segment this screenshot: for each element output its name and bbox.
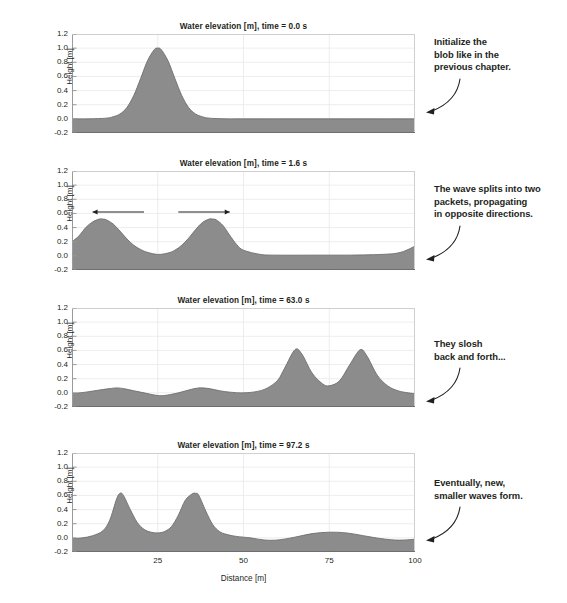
plot-area: Height [m]1.21.00.80.60.40.20.0-0.2 xyxy=(72,34,415,133)
y-tick-label: -0.2 xyxy=(44,129,68,137)
y-tick-label: 0.6 xyxy=(44,491,68,499)
annotation-line: They slosh xyxy=(434,338,564,351)
annotation-line: smaller waves form. xyxy=(434,490,564,503)
y-tick-label: 1.0 xyxy=(44,181,68,189)
y-tick-label: -0.2 xyxy=(44,266,68,274)
annotation-text: Eventually, new,smaller waves form. xyxy=(434,477,564,502)
y-tick-label: 0.2 xyxy=(44,375,68,383)
x-tick-label: 100 xyxy=(408,557,421,565)
plot-area: Height [m]1.21.00.80.60.40.20.0-0.225507… xyxy=(72,453,415,552)
panel-title: Water elevation [m], time = 1.6 s xyxy=(72,159,415,168)
plot-area: Height [m]1.21.00.80.60.40.20.0-0.2 xyxy=(72,308,415,407)
wave-plot-svg xyxy=(72,308,415,407)
wave-plot-svg xyxy=(72,171,415,270)
plot-area: Height [m]1.21.00.80.60.40.20.0-0.2 xyxy=(72,171,415,270)
y-tick-label: 1.2 xyxy=(44,30,68,38)
annotation-line: in opposite directions. xyxy=(434,208,564,221)
y-tick-label: 0.6 xyxy=(44,209,68,217)
panel-title: Water elevation [m], time = 0.0 s xyxy=(72,22,415,31)
y-tick-label: 1.0 xyxy=(44,318,68,326)
y-tick-label: 0.4 xyxy=(44,361,68,369)
wave-plot-svg xyxy=(72,34,415,133)
y-tick-label: -0.2 xyxy=(44,403,68,411)
y-tick-label: 0.0 xyxy=(44,389,68,397)
water-elevation-figure: Water elevation [m], time = 0.0 sHeight … xyxy=(0,0,567,603)
y-tick-label: 1.2 xyxy=(44,304,68,312)
x-tick-label: 50 xyxy=(239,557,248,565)
y-tick-label: 0.8 xyxy=(44,58,68,66)
y-tick-label: 0.6 xyxy=(44,72,68,80)
y-tick-label: 0.6 xyxy=(44,346,68,354)
panel-title: Water elevation [m], time = 97.2 s xyxy=(72,441,415,450)
annotation-text: The wave splits into twopackets, propaga… xyxy=(434,183,564,221)
y-tick-label: 1.2 xyxy=(44,449,68,457)
y-tick-label: 0.0 xyxy=(44,252,68,260)
x-tick-label: 25 xyxy=(153,557,162,565)
annotation-line: Initialize the xyxy=(434,36,564,49)
panel-title: Water elevation [m], time = 63.0 s xyxy=(72,296,415,305)
y-tick-label: 0.4 xyxy=(44,87,68,95)
y-tick-label: 1.0 xyxy=(44,463,68,471)
y-tick-label: 0.2 xyxy=(44,520,68,528)
annotation-curved-arrow-icon xyxy=(414,224,484,270)
y-tick-label: 0.4 xyxy=(44,224,68,232)
annotation-curved-arrow-icon xyxy=(414,77,484,123)
annotation-line: Eventually, new, xyxy=(434,477,564,490)
annotation-curved-arrow-icon xyxy=(414,505,484,551)
annotation-line: packets, propagating xyxy=(434,196,564,209)
y-tick-label: 1.2 xyxy=(44,167,68,175)
wave-plot-svg xyxy=(72,453,415,552)
annotation-line: blob like in the xyxy=(434,49,564,62)
annotation-curved-arrow-icon xyxy=(414,366,484,412)
x-axis-label: Distance [m] xyxy=(72,574,415,583)
y-tick-label: 0.4 xyxy=(44,506,68,514)
y-tick-label: 0.2 xyxy=(44,101,68,109)
y-tick-label: 0.0 xyxy=(44,115,68,123)
y-tick-label: 1.0 xyxy=(44,44,68,52)
x-tick-label: 75 xyxy=(325,557,334,565)
annotation-line: back and forth... xyxy=(434,351,564,364)
y-tick-label: 0.8 xyxy=(44,195,68,203)
y-tick-label: 0.2 xyxy=(44,238,68,246)
annotation-line: The wave splits into two xyxy=(434,183,564,196)
annotation-line: previous chapter. xyxy=(434,61,564,74)
annotation-text: They sloshback and forth... xyxy=(434,338,564,363)
annotation-text: Initialize theblob like in theprevious c… xyxy=(434,36,564,74)
y-tick-label: -0.2 xyxy=(44,548,68,556)
y-tick-label: 0.8 xyxy=(44,477,68,485)
y-tick-label: 0.0 xyxy=(44,534,68,542)
y-tick-label: 0.8 xyxy=(44,332,68,340)
